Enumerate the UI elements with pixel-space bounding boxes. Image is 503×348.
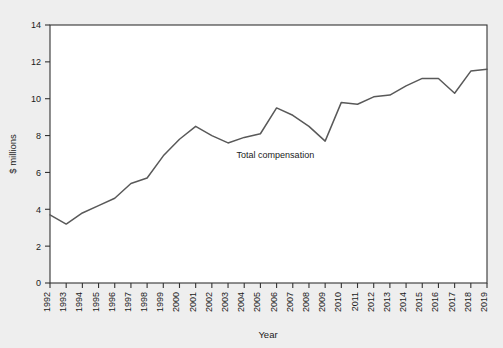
x-tick-label: 2004 bbox=[236, 292, 246, 312]
x-tick-label: 2012 bbox=[366, 292, 376, 312]
chart-figure: 02468101214 1992199319941995199619971998… bbox=[0, 0, 503, 348]
x-tick-label: 2006 bbox=[269, 292, 279, 312]
y-tick-label: 2 bbox=[36, 242, 41, 252]
y-axis-title: $ millions bbox=[7, 134, 18, 174]
x-tick-label: 1992 bbox=[42, 292, 52, 312]
x-tick-label: 2011 bbox=[350, 292, 360, 311]
y-tick-label: 4 bbox=[36, 205, 41, 215]
y-tick-label: 10 bbox=[31, 94, 41, 104]
x-tick-label: 1998 bbox=[139, 292, 149, 312]
x-tick-label: 2013 bbox=[382, 292, 392, 312]
x-tick-label: 2002 bbox=[204, 292, 214, 312]
x-tick-label: 2018 bbox=[463, 292, 473, 312]
x-tick-label: 1997 bbox=[123, 292, 133, 312]
x-tick-label: 1999 bbox=[155, 292, 165, 312]
x-tick-label: 2009 bbox=[317, 292, 327, 312]
x-tick-label: 2001 bbox=[188, 292, 198, 312]
x-tick-label: 2007 bbox=[285, 292, 295, 312]
series-annotation-total-compensation: Total compensation bbox=[237, 150, 315, 160]
y-tick-label: 6 bbox=[36, 168, 41, 178]
x-tick-label: 2017 bbox=[447, 292, 457, 312]
line-chart: 02468101214 1992199319941995199619971998… bbox=[0, 0, 503, 348]
x-axis-title: Year bbox=[258, 329, 277, 340]
y-tick-label: 0 bbox=[36, 278, 41, 288]
x-tick-label: 2019 bbox=[479, 292, 489, 312]
y-tick-label: 14 bbox=[31, 20, 41, 30]
x-tick-label: 1994 bbox=[74, 292, 84, 312]
x-tick-label: 2016 bbox=[430, 292, 440, 312]
x-tick-label: 2000 bbox=[171, 292, 181, 312]
y-tick-label: 8 bbox=[36, 131, 41, 141]
x-tick-label: 1995 bbox=[91, 292, 101, 312]
x-tick-label: 1996 bbox=[107, 292, 117, 312]
x-tick-label: 2008 bbox=[301, 292, 311, 312]
x-tick-label: 1993 bbox=[58, 292, 68, 312]
x-tick-label: 2003 bbox=[220, 292, 230, 312]
x-tick-label: 2015 bbox=[414, 292, 424, 312]
x-tick-label: 2014 bbox=[398, 292, 408, 312]
x-tick-label: 2010 bbox=[333, 292, 343, 312]
x-tick-label: 2005 bbox=[252, 292, 262, 312]
y-tick-label: 12 bbox=[31, 57, 41, 67]
